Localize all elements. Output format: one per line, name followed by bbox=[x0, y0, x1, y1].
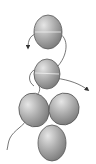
bead-4 bbox=[45, 90, 82, 129]
thread-left-wrap bbox=[30, 70, 35, 86]
bead-5 bbox=[38, 125, 66, 161]
bead-3 bbox=[15, 90, 53, 131]
beads bbox=[15, 15, 83, 161]
thread-exit-right bbox=[55, 78, 88, 90]
beading-diagram bbox=[0, 0, 96, 164]
